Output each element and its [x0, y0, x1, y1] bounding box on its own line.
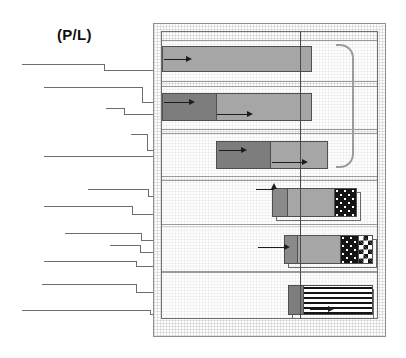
bar-track-2[interactable] [162, 93, 312, 121]
bar-track-5[interactable] [284, 235, 373, 264]
arrow-track-1-entry-line [164, 59, 186, 60]
rounded-bracket-connector [336, 44, 354, 168]
arrow-track-3-entry-head [241, 147, 247, 153]
bar-track-2-segment-head [163, 94, 216, 120]
leader-7-jog [132, 206, 133, 214]
leader-9-segment-a [110, 245, 140, 246]
bar-track-3-segment-head [217, 142, 270, 168]
arrow-track-5-entry-line [258, 247, 284, 248]
bar-track-5-segment-body [297, 236, 340, 263]
arrow-track-5-entry-head [284, 244, 290, 250]
bar-track-5-segment-dots [340, 236, 359, 263]
arrow-track-4-entry-line [256, 189, 274, 190]
leader-5-segment-a [44, 156, 160, 157]
leader-11-jog [136, 284, 137, 292]
bar-track-3-segment-body [270, 142, 327, 168]
arrow-track-3-second-head [302, 159, 308, 165]
bar-track-4-segment-dots [334, 189, 356, 216]
bar-track-4[interactable] [272, 188, 357, 217]
leader-6-jog [148, 189, 149, 196]
leader-4-segment-a [131, 134, 147, 135]
arrow-track-3-second-line [272, 162, 302, 163]
leader-2-jog [142, 87, 143, 102]
figure-root: (P/L) [0, 0, 406, 358]
arrow-track-2-entry-line [164, 102, 189, 103]
leader-1-segment-a [22, 64, 104, 65]
leader-12-segment-a [22, 310, 150, 311]
leader-10-segment-a [44, 261, 136, 262]
arrow-track-4-entry-head [271, 183, 277, 189]
leader-8-jog [141, 233, 142, 240]
leader-11-segment-a [42, 284, 136, 285]
arrow-track-6-exit-head [328, 306, 334, 312]
bar-track-3[interactable] [216, 141, 328, 169]
page-title: (P/L) [57, 26, 92, 43]
arrow-track-1-entry-head [186, 56, 192, 62]
bar-track-4-segment-head [273, 189, 287, 216]
arrow-track-2-entry-head [189, 99, 195, 105]
leader-3-segment-a [106, 108, 124, 109]
bar-track-4-segment-body [287, 189, 334, 216]
arrow-track-2-second-line [217, 114, 247, 115]
leader-9-jog [140, 245, 141, 252]
bar-track-5-segment-check [358, 236, 372, 263]
arrow-track-3-entry-line [219, 150, 241, 151]
leader-4-jog [147, 134, 148, 150]
leader-6-segment-a [88, 189, 148, 190]
vertical-reference-line [300, 31, 301, 319]
arrow-track-2-second-head [247, 111, 253, 117]
leader-7-segment-a [44, 206, 132, 207]
arrow-track-6-exit-line [310, 309, 328, 310]
leader-2-segment-a [44, 87, 142, 88]
bar-track-2-segment-body [216, 94, 311, 120]
leader-8-segment-a [65, 233, 141, 234]
